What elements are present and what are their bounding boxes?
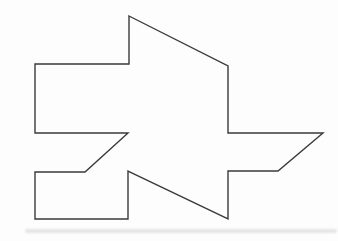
polygon-figure <box>0 0 338 241</box>
polygon-outline <box>35 16 323 219</box>
figure-canvas <box>0 0 338 241</box>
